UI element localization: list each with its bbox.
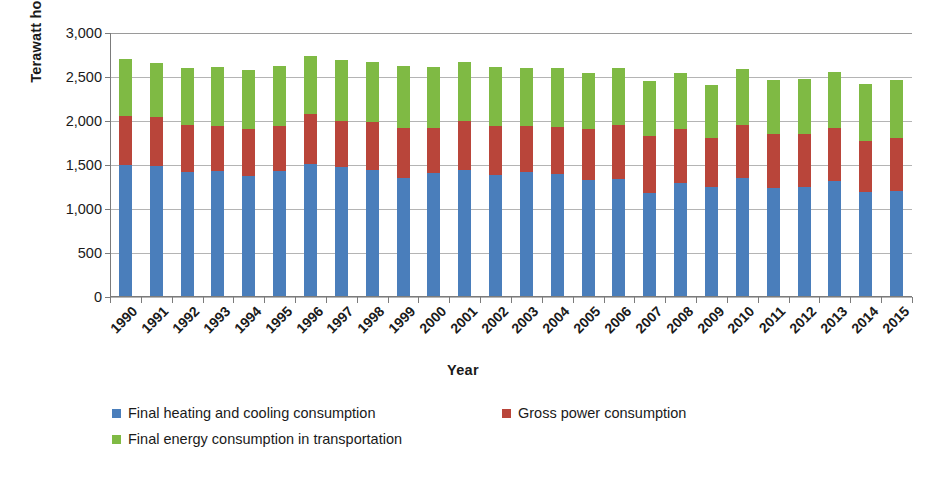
bar-segment[interactable] [828,72,841,127]
bar-segment[interactable] [150,63,163,118]
bar-segment[interactable] [366,170,379,297]
legend-item[interactable]: Final heating and cooling consumption [112,405,375,421]
bar-segment[interactable] [520,126,533,172]
bar-segment[interactable] [643,136,656,193]
bar-column[interactable] [798,33,811,297]
bar-segment[interactable] [427,67,440,128]
bar-segment[interactable] [304,164,317,297]
bar-segment[interactable] [705,187,718,297]
bar-segment[interactable] [427,128,440,172]
bar-column[interactable] [674,33,687,297]
bar-segment[interactable] [150,117,163,166]
bar-segment[interactable] [366,122,379,170]
bar-column[interactable] [520,33,533,297]
bar-column[interactable] [643,33,656,297]
bar-segment[interactable] [551,68,564,127]
bar-segment[interactable] [643,81,656,136]
bar-column[interactable] [828,33,841,297]
bar-column[interactable] [705,33,718,297]
bar-segment[interactable] [211,126,224,171]
bar-segment[interactable] [859,84,872,141]
bar-segment[interactable] [798,187,811,297]
bar-column[interactable] [181,33,194,297]
bar-segment[interactable] [582,129,595,180]
bar-segment[interactable] [612,179,625,297]
bar-segment[interactable] [335,60,348,122]
bar-segment[interactable] [674,129,687,184]
bar-segment[interactable] [211,67,224,126]
bar-segment[interactable] [181,172,194,297]
bar-segment[interactable] [366,62,379,123]
bar-segment[interactable] [458,121,471,170]
bar-segment[interactable] [273,66,286,127]
bar-segment[interactable] [736,69,749,125]
bar-segment[interactable] [551,174,564,297]
bar-segment[interactable] [397,178,410,297]
legend-item[interactable]: Final energy consumption in transportati… [112,431,402,447]
bar-segment[interactable] [489,126,502,174]
bar-segment[interactable] [767,80,780,134]
bar-column[interactable] [335,33,348,297]
bar-segment[interactable] [335,121,348,167]
bar-column[interactable] [366,33,379,297]
bar-segment[interactable] [119,116,132,165]
bar-column[interactable] [612,33,625,297]
bar-segment[interactable] [489,67,502,126]
bar-column[interactable] [736,33,749,297]
bar-segment[interactable] [119,165,132,297]
legend-item[interactable]: Gross power consumption [502,405,686,421]
bar-segment[interactable] [242,176,255,297]
bar-column[interactable] [119,33,132,297]
bar-segment[interactable] [828,128,841,181]
bar-segment[interactable] [859,192,872,297]
bar-segment[interactable] [582,73,595,129]
bar-column[interactable] [211,33,224,297]
bar-segment[interactable] [458,62,471,121]
bar-segment[interactable] [612,125,625,178]
bar-segment[interactable] [397,66,410,128]
bar-column[interactable] [458,33,471,297]
bar-column[interactable] [551,33,564,297]
bar-segment[interactable] [489,175,502,297]
bar-segment[interactable] [427,173,440,297]
bar-column[interactable] [397,33,410,297]
bar-segment[interactable] [705,85,718,138]
bar-segment[interactable] [304,56,317,115]
bar-segment[interactable] [397,128,410,178]
bar-segment[interactable] [458,170,471,297]
bar-segment[interactable] [181,68,194,125]
bar-segment[interactable] [736,178,749,297]
bar-segment[interactable] [181,125,194,172]
bar-segment[interactable] [890,138,903,191]
bar-segment[interactable] [643,193,656,297]
bar-segment[interactable] [304,114,317,163]
bar-segment[interactable] [211,171,224,297]
bar-column[interactable] [767,33,780,297]
bar-column[interactable] [890,33,903,297]
bar-column[interactable] [489,33,502,297]
bar-segment[interactable] [798,134,811,187]
bar-segment[interactable] [520,172,533,297]
bar-column[interactable] [304,33,317,297]
bar-column[interactable] [427,33,440,297]
bar-column[interactable] [242,33,255,297]
bar-segment[interactable] [890,80,903,139]
bar-segment[interactable] [767,188,780,297]
bar-segment[interactable] [828,181,841,297]
bar-segment[interactable] [242,129,255,177]
bar-segment[interactable] [798,79,811,134]
bar-segment[interactable] [674,73,687,129]
bar-segment[interactable] [736,125,749,179]
bar-segment[interactable] [119,59,132,115]
bar-segment[interactable] [335,167,348,297]
bar-segment[interactable] [551,127,564,174]
bar-column[interactable] [273,33,286,297]
bar-segment[interactable] [520,68,533,127]
bar-column[interactable] [150,33,163,297]
bar-segment[interactable] [582,180,595,297]
bar-column[interactable] [859,33,872,297]
bar-segment[interactable] [273,171,286,297]
bar-segment[interactable] [273,126,286,171]
bar-segment[interactable] [859,141,872,192]
bar-segment[interactable] [242,70,255,129]
